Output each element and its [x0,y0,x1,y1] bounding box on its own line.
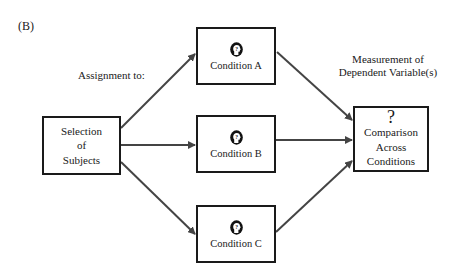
head-question-icon: ? [230,130,243,145]
selection-line2: of [77,138,86,153]
condition-b-box: ? Condition B [196,115,276,173]
condition-b-label: Condition B [210,148,262,159]
measurement-label-line1: Measurement of [318,53,450,66]
comparison-line2: Across [376,140,407,155]
svg-text:?: ? [235,45,238,51]
measurement-label: Measurement of Dependent Variable(s) [318,53,450,79]
selection-line3: Subjects [63,153,100,168]
comparison-line1: Comparison [364,125,418,140]
measurement-label-line2: Dependent Variable(s) [318,66,450,79]
condition-a-box: ? Condition A [196,27,276,85]
head-question-icon: ? [230,42,243,57]
selection-line1: Selection [61,124,102,139]
condition-c-label: Condition C [210,238,262,249]
svg-text:?: ? [235,223,238,229]
svg-text:?: ? [235,133,238,139]
arrow-c-to-comparison [276,161,352,232]
arrow-selection-to-c [121,162,195,234]
comparison-across-conditions-box: ? Comparison Across Conditions [353,106,429,172]
condition-a-label: Condition A [210,60,262,71]
assignment-label: Assignment to: [78,69,145,81]
head-question-icon: ? [230,220,243,235]
selection-of-subjects-box: Selection of Subjects [42,116,121,175]
question-mark-icon: ? [387,109,395,125]
comparison-line3: Conditions [367,154,415,169]
arrow-selection-to-a [121,54,195,128]
condition-c-box: ? Condition C [196,205,276,263]
